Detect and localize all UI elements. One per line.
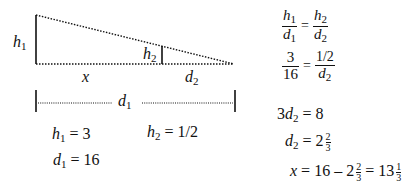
given-h2: h2 = 1/2 xyxy=(147,124,198,142)
label-d2: d2 xyxy=(185,69,199,87)
step-proportion: h1d1 = h2d2 xyxy=(282,8,328,44)
label-d1: d1 xyxy=(118,93,132,111)
given-d1: d1 = 16 xyxy=(53,152,100,170)
step-substitute: 316 = 1/2d2 xyxy=(282,50,335,83)
step-solve-d2: d2 = 223 xyxy=(285,132,331,153)
given-h1: h1 = 3 xyxy=(52,126,91,144)
label-x: x xyxy=(82,69,89,85)
step-solve-x: x = 16 – 223 = 1313 xyxy=(290,162,401,183)
hypotenuse-dotted xyxy=(36,15,234,64)
label-h1: h1 xyxy=(13,34,27,52)
step-cross-multiply: 3d2 = 8 xyxy=(277,106,324,124)
label-h2: h2 xyxy=(143,46,157,64)
